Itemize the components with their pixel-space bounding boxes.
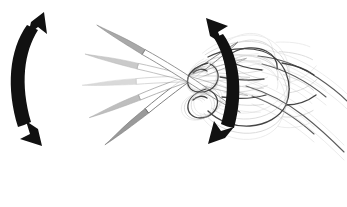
illustration-svg: Double-headed curved arrow (brush tip tr… — [0, 0, 347, 207]
illustration-canvas: Wrist flexion and extension brush stroke… — [0, 0, 347, 207]
background — [0, 0, 347, 207]
